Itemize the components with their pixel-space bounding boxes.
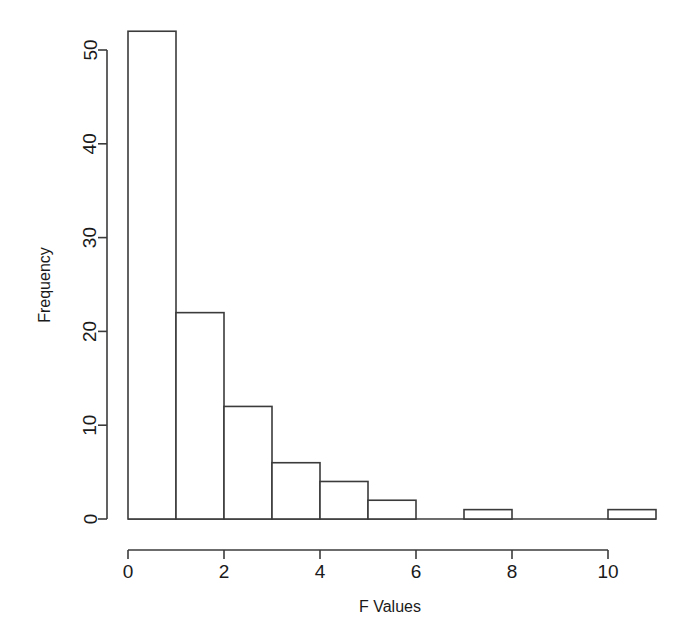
x-tick-label: 0	[123, 561, 134, 582]
y-axis-title: Frequency	[36, 247, 53, 323]
histogram-bar	[368, 500, 416, 519]
y-tick-label: 30	[80, 227, 101, 248]
x-axis-title: F Values	[359, 598, 421, 615]
y-axis: 01020304050	[80, 39, 108, 524]
y-tick-label: 0	[80, 514, 101, 525]
histogram-figure: 01020304050 0246810 F Values Frequency	[0, 0, 690, 639]
y-tick-label: 10	[80, 415, 101, 436]
histogram-bar	[224, 406, 272, 519]
x-tick-label: 6	[411, 561, 422, 582]
y-tick-label: 20	[80, 321, 101, 342]
histogram-bar	[272, 463, 320, 519]
histogram-bar	[128, 31, 176, 519]
x-tick-label: 8	[507, 561, 518, 582]
y-tick-label: 50	[80, 39, 101, 60]
y-tick-label: 40	[80, 133, 101, 154]
histogram-bar	[464, 510, 512, 519]
histogram-bar	[608, 510, 656, 519]
histogram-bar	[176, 313, 224, 519]
histogram-bars	[128, 31, 656, 519]
x-tick-label: 4	[315, 561, 326, 582]
x-tick-label: 2	[219, 561, 230, 582]
histogram-bar	[320, 481, 368, 519]
x-tick-label: 10	[597, 561, 618, 582]
plot-canvas: 01020304050 0246810 F Values Frequency	[0, 0, 690, 639]
x-axis: 0246810	[123, 550, 619, 582]
